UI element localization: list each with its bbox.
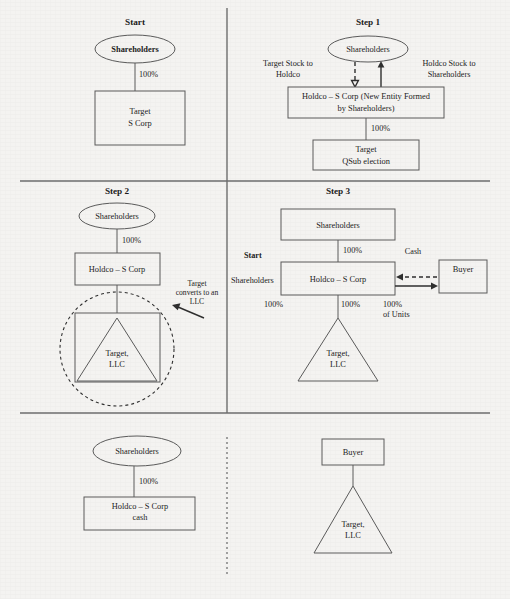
step3-cash-arrowhead xyxy=(396,274,403,281)
result-buyer-label: Buyer xyxy=(343,448,364,457)
result-target-line2: LLC xyxy=(345,531,361,540)
step1-right-label-line2: Shareholders xyxy=(428,70,471,79)
start-target-line1: Target xyxy=(129,107,151,116)
panel-result: Shareholders 100% Holdco – S Corp cash B… xyxy=(84,436,392,553)
panel-step2: Step 2 Shareholders 100% Holdco – S Corp… xyxy=(60,186,218,406)
step2-shareholders-label: Shareholders xyxy=(95,212,139,221)
start-target-line2: S Corp xyxy=(128,119,152,128)
step1-holdco-line1: Holdco – S Corp (New Entity Formed xyxy=(302,92,431,101)
step3-cash-label: Cash xyxy=(405,247,421,256)
result-target-line1: Target, xyxy=(341,520,364,529)
step3-target-line1: Target, xyxy=(326,349,349,358)
step2-annotation-line2: converts to an xyxy=(176,288,219,297)
step1-holdco-line2: by Shareholders) xyxy=(338,104,395,113)
step3-ownership-mid-label: 100% xyxy=(341,300,360,309)
step1-target-stock-arrowhead xyxy=(352,81,359,88)
step2-target-box xyxy=(75,313,160,382)
step2-annotation-arrowhead xyxy=(172,303,181,310)
step3-units-line2: of Units xyxy=(383,310,410,319)
panel-step3-title: Step 3 xyxy=(326,186,351,196)
step2-annotation-line1: Target xyxy=(187,279,207,288)
start-ownership-label: 100% xyxy=(139,70,158,79)
step3-units-arrowhead xyxy=(431,283,438,290)
step2-holdco-label: Holdco – S Corp xyxy=(89,265,146,274)
panel-step1-title: Step 1 xyxy=(356,17,381,27)
step3-stray-start-label: Start xyxy=(244,251,262,260)
panel-step2-title: Step 2 xyxy=(105,186,130,196)
start-shareholders-label: Shareholders xyxy=(111,45,159,54)
step2-ownership-label: 100% xyxy=(122,236,141,245)
start-target-box xyxy=(95,91,185,145)
step3-holdco-label: Holdco – S Corp xyxy=(310,275,367,284)
step2-target-line1: Target, xyxy=(105,349,128,358)
step1-target-line1: Target xyxy=(355,145,377,154)
step1-shareholders-label: Shareholders xyxy=(346,45,390,54)
diagram-page: Start Shareholders 100% Target S Corp St… xyxy=(0,0,510,599)
panel-start: Start Shareholders 100% Target S Corp xyxy=(95,17,185,145)
panel-start-title: Start xyxy=(125,17,146,27)
step1-ownership-label: 100% xyxy=(371,124,390,133)
panel-step3: Step 3 Shareholders 100% Start Sharehold… xyxy=(231,186,487,381)
result-holdco-line1: Holdco – S Corp xyxy=(112,502,169,511)
step3-stray-shareholders-label: Shareholders xyxy=(231,276,274,285)
step1-left-label-line1: Target Stock to xyxy=(263,59,313,68)
panel-step1: Step 1 Shareholders Target Stock to Hold… xyxy=(263,17,475,170)
step2-annotation-arrow xyxy=(178,307,204,318)
step1-target-line2: QSub election xyxy=(342,157,390,166)
result-holdco-line2: cash xyxy=(133,513,149,522)
step2-annotation-line3: LLC xyxy=(190,297,204,306)
result-shareholders-label: Shareholders xyxy=(115,447,159,456)
result-ownership-label: 100% xyxy=(139,477,158,486)
step3-units-line1: 100% xyxy=(383,300,402,309)
step3-buyer-label: Buyer xyxy=(453,265,474,274)
step3-ownership-top-label: 100% xyxy=(343,246,362,255)
step3-target-line2: LLC xyxy=(330,360,346,369)
step2-target-line2: LLC xyxy=(109,360,125,369)
step3-shareholders-label: Shareholders xyxy=(316,221,360,230)
step3-stray-pct-label: 100% xyxy=(264,300,283,309)
step1-right-label-line1: Holdco Stock to xyxy=(422,59,475,68)
step1-left-label-line2: Holdco xyxy=(276,70,300,79)
